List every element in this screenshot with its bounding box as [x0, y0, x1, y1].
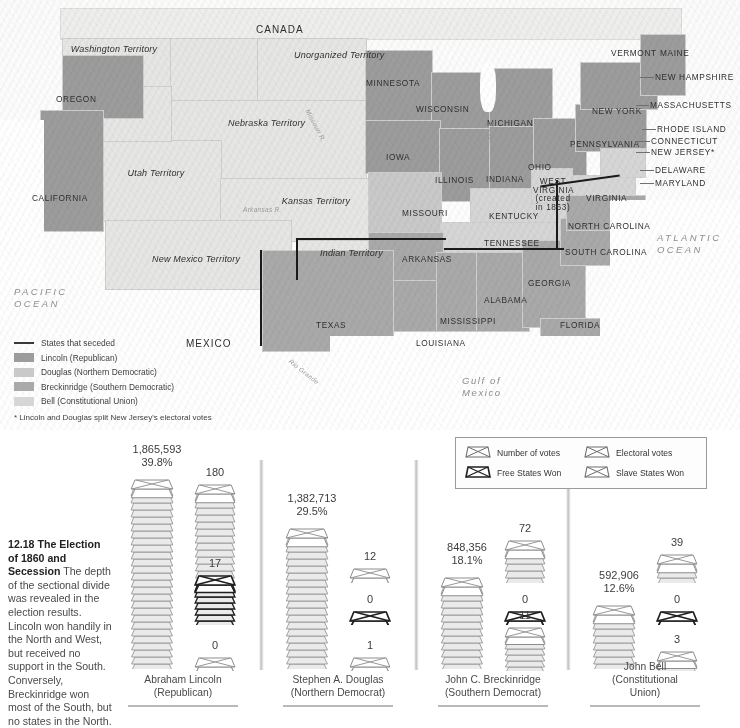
- electoral-vote-stack: [504, 540, 546, 583]
- map-label-louisiana: LOUISIANA: [416, 338, 466, 348]
- map-label-georgia: GEORGIA: [528, 278, 571, 288]
- map-label-kansas-territory: Kansas Territory: [280, 196, 352, 207]
- gulf-line-2: Mexico: [462, 387, 502, 398]
- map-label-california: CALIFORNIA: [32, 193, 88, 203]
- utah-territory-text: Utah Territory: [128, 168, 185, 178]
- leader-maryland: [640, 183, 654, 184]
- atlantic-line-1: ATLANTIC: [657, 232, 721, 243]
- map-label-texas: TEXAS: [316, 320, 346, 330]
- legend-label-breckinridge: Breckinridge (Southern Democratic): [41, 382, 174, 392]
- popular-vote-stack: [285, 528, 329, 669]
- electoral-vote-stack: [349, 568, 391, 583]
- legend-row-bell: Bell (Constitutional Union): [14, 394, 264, 409]
- electoral-votes-label: 180: [190, 466, 240, 479]
- map-label-arkansas-river: Arkansas R.: [243, 206, 282, 213]
- candidate-name-line1: Abraham Lincoln: [144, 674, 221, 685]
- ballot-box-icon: [465, 445, 491, 461]
- kansas-territory-text: Kansas Territory: [282, 196, 350, 206]
- popular-votes-label: 848,35618.1%: [422, 541, 512, 566]
- region-missouri: [368, 172, 442, 234]
- slave-states-label: 11: [500, 609, 550, 622]
- legend-label-number-of-votes: Number of votes: [497, 448, 560, 458]
- figure-number: 12.18: [8, 538, 35, 550]
- legend-row-breckinridge: Breckinridge (Southern Democratic): [14, 380, 264, 395]
- map-label-new-jersey: NEW JERSEY*: [651, 147, 715, 157]
- legend-label-free-states-won: Free States Won: [497, 468, 561, 478]
- electoral-vote-stack: [656, 554, 698, 583]
- wv-sub: (created in 1863): [533, 194, 573, 211]
- douglas-swatch: [14, 368, 34, 377]
- candidate-underline: [283, 705, 393, 708]
- map-label-west-virginia: WEST VIRGINIA (created in 1863): [533, 177, 573, 211]
- candidate-divider: [414, 460, 419, 670]
- candidate-name: John Bell(ConstitutionalUnion): [566, 660, 724, 699]
- slave-states-label: 1: [345, 639, 395, 652]
- candidate-name-line2: (Southern Democrat): [445, 687, 541, 698]
- ballot-box-slave-states-icon: [584, 465, 610, 481]
- legend-label-slave-states-won: Slave States Won: [616, 468, 684, 478]
- map-label-kentucky: KENTUCKY: [489, 211, 539, 221]
- atlantic-line-2: OCEAN: [657, 244, 703, 255]
- seceded-line-swatch: [14, 342, 34, 344]
- popular-votes-value: 592,906: [599, 569, 639, 581]
- candidate-underline: [438, 705, 548, 708]
- map-label-mississippi: MISSISSIPPI: [440, 316, 496, 326]
- region-unorganized-territory: [255, 38, 367, 102]
- free-states-label: 0: [500, 593, 550, 606]
- pacific-line-1: PACIFIC: [14, 286, 68, 297]
- pacific-line-2: OCEAN: [14, 298, 60, 309]
- secession-boundary-tx: [260, 250, 262, 346]
- leader-rhode-island: [642, 129, 656, 130]
- secession-boundary-tn: [444, 248, 564, 250]
- map-label-utah-territory: Utah Territory: [120, 168, 192, 179]
- candidate-divider: [566, 460, 571, 670]
- ballot-box-electoral-icon: [584, 445, 610, 461]
- map-label-iowa: IOWA: [386, 152, 410, 162]
- map-label-new-hampshire: NEW HAMPSHIRE: [655, 72, 734, 82]
- candidate-name-line1: Stephen A. Douglas: [292, 674, 383, 685]
- map-label-nebraska-territory: Nebraska Territory: [228, 118, 304, 129]
- candidate-name: John C. Breckinridge(Southern Democrat): [414, 673, 572, 699]
- legend-free-states-won: Free States Won: [465, 465, 561, 481]
- free-states-label: 0: [345, 593, 395, 606]
- legend-label-lincoln: Lincoln (Republican): [41, 353, 117, 363]
- map-label-pennsylvania: PENNSYLVANIA: [570, 139, 640, 149]
- free-states-label: 0: [652, 593, 702, 606]
- south-carolina-text: SOUTH CAROLINA: [565, 247, 647, 257]
- candidate-divider: [259, 460, 264, 670]
- map-label-connecticut: CONNECTICUT: [651, 136, 718, 146]
- slave-states-stack: [504, 627, 546, 671]
- florida-water-east: [600, 300, 740, 430]
- map-label-wisconsin: WISCONSIN: [416, 104, 469, 114]
- popular-vote-stack: [130, 479, 174, 669]
- region-plains-upper: [170, 38, 258, 102]
- region-utah-territory: [90, 140, 222, 222]
- wv-sub-2: in 1863): [536, 202, 571, 212]
- popular-vote-stack: [440, 577, 484, 669]
- map-label-florida: FLORIDA: [560, 320, 600, 330]
- lincoln-swatch: [14, 353, 34, 362]
- map-label-canada: CANADA: [256, 24, 304, 35]
- map-panel: CANADA MEXICO Washington Territory Unorg…: [0, 0, 740, 430]
- region-california: [40, 110, 104, 232]
- free-states-stack: [656, 611, 698, 625]
- candidate-name-line2: (Republican): [154, 687, 212, 698]
- map-label-vermont: VERMONT: [611, 48, 657, 58]
- map-label-indian-territory: Indian Territory: [320, 248, 382, 259]
- popular-votes-label: 592,90612.6%: [574, 569, 664, 594]
- new-hampshire-text: NEW HAMPSHIRE: [655, 72, 734, 82]
- candidate-name-line3: Union): [630, 687, 660, 698]
- candidate-name: Stephen A. Douglas(Northern Democrat): [259, 673, 417, 699]
- leader-connecticut: [636, 141, 650, 142]
- candidate-name-line2: (Northern Democrat): [291, 687, 385, 698]
- leader-delaware: [640, 170, 654, 171]
- breckinridge-swatch: [14, 382, 34, 391]
- legend-row-lincoln: Lincoln (Republican): [14, 351, 264, 366]
- candidate-name-line1: John Bell: [624, 661, 666, 672]
- legend-label-bell: Bell (Constitutional Union): [41, 396, 138, 406]
- legend-row-seceded: States that seceded: [14, 336, 264, 351]
- legend-footnote: * Lincoln and Douglas split New Jersey's…: [14, 413, 264, 422]
- legend-electoral-votes: Electoral votes: [584, 445, 672, 461]
- candidate-name-line2: (Constitutional: [612, 674, 678, 685]
- map-label-washington-territory: Washington Territory: [66, 44, 162, 55]
